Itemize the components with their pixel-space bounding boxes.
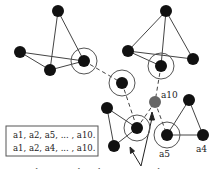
label-a4: a4 xyxy=(196,144,207,154)
label-a10: a10 xyxy=(161,90,178,100)
edge-tr1-tr4 xyxy=(161,11,166,66)
dashed-edge-tl4-mid xyxy=(84,61,122,83)
edge-tr1-tr2 xyxy=(128,11,166,51)
node-tr4 xyxy=(155,60,167,72)
arrow-to-bl3 xyxy=(132,151,141,166)
node-br1 xyxy=(183,94,195,106)
node-tr2 xyxy=(122,45,134,57)
node-a4 xyxy=(197,129,209,141)
arrowhead-icon xyxy=(150,112,155,120)
node-tr1 xyxy=(160,5,172,17)
node-mid xyxy=(116,77,128,89)
node-tl2 xyxy=(14,46,26,58)
caption: Sharing path with recovery probing xyxy=(30,167,175,169)
dashed-edge-mid-bl3 xyxy=(122,83,137,128)
node-a5 xyxy=(161,129,173,141)
path-line-2: a1, a2, a4, ... , a10. xyxy=(13,143,95,153)
node-bl2 xyxy=(108,140,120,152)
node-bl1 xyxy=(101,102,113,114)
edge-tl1-tl4 xyxy=(58,11,84,61)
path-box: a1, a2, a5, ... , a10. a1, a2, a4, ... ,… xyxy=(6,126,98,156)
edge-tr1-tr3 xyxy=(166,11,193,59)
node-bl3 xyxy=(131,122,143,134)
node-tl3 xyxy=(44,64,56,76)
edge-tl1-tl3 xyxy=(50,11,58,70)
node-a10 xyxy=(149,96,161,108)
label-a5: a5 xyxy=(159,149,170,159)
node-tl4 xyxy=(78,55,90,67)
network-diagram: a10 a5 a4 a1, a2, a5, ... , a10. a1, a2,… xyxy=(0,0,216,169)
node-tr3 xyxy=(187,53,199,65)
arrow-to-a10 xyxy=(141,118,152,166)
edge-a5-br1 xyxy=(167,100,189,135)
arrowhead-icon xyxy=(130,147,135,154)
node-tl1 xyxy=(52,5,64,17)
path-line-1: a1, a2, a5, ... , a10. xyxy=(13,130,95,140)
